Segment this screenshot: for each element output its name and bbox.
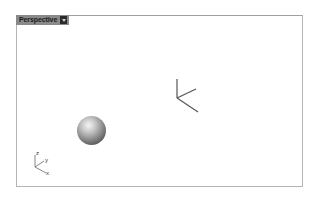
world-axis-z-label: z xyxy=(36,150,39,156)
gizmo-x-axis xyxy=(177,98,198,112)
object-axes-gizmo xyxy=(177,79,198,112)
sphere-object[interactable] xyxy=(77,116,106,145)
gizmo-y-axis xyxy=(177,89,196,98)
scene-canvas: z y x xyxy=(0,0,313,201)
world-axis-x-label: x xyxy=(46,170,49,176)
world-axis-y-label: y xyxy=(45,157,48,163)
